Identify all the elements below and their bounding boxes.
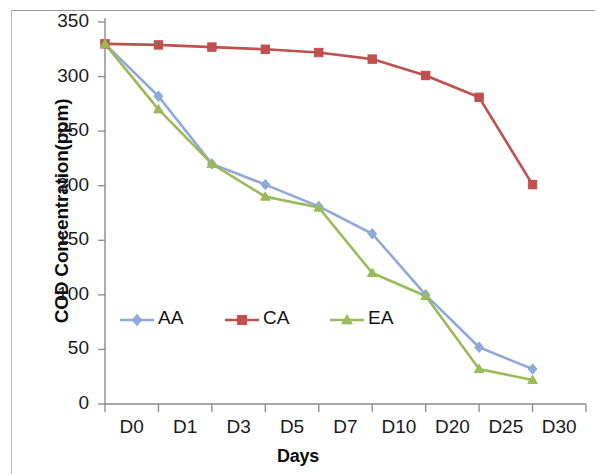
data-point-aa-d5 — [261, 179, 270, 190]
x-tick-label-d0: D0 — [102, 416, 162, 438]
data-point-aa-d30 — [528, 364, 537, 375]
data-point-ca-d10 — [368, 55, 376, 63]
plot-area — [0, 0, 596, 474]
x-tick-label-d3: D3 — [209, 416, 269, 438]
y-tick-label: 200 — [25, 174, 89, 196]
x-tick-label-d10: D10 — [369, 416, 429, 438]
cod-concentration-line-chart: COD Concentration(ppm) Days 050100150200… — [0, 0, 596, 474]
legend-glyphs — [120, 314, 364, 326]
data-point-ca-d25 — [475, 93, 483, 101]
x-tick-label-d1: D1 — [155, 416, 215, 438]
data-point-ca-d5 — [261, 45, 269, 53]
legend-label-aa: AA — [158, 307, 183, 329]
x-tick-label-d7: D7 — [316, 416, 376, 438]
legend-label-ea: EA — [368, 307, 393, 329]
y-tick-label: 0 — [25, 392, 89, 414]
x-tick-label-d25: D25 — [476, 416, 536, 438]
data-point-ca-d1 — [154, 41, 162, 49]
data-point-ca-d7 — [315, 48, 323, 56]
series-markers — [100, 39, 537, 384]
y-tick-label: 250 — [25, 119, 89, 141]
legend-marker-ca — [237, 315, 246, 324]
data-point-ca-d20 — [421, 71, 429, 79]
data-point-ca-d30 — [528, 180, 536, 188]
axis-lines — [105, 18, 586, 404]
legend-marker-aa — [132, 314, 142, 326]
y-tick-label: 50 — [25, 337, 89, 359]
y-tick-label: 100 — [25, 283, 89, 305]
y-tick-label: 300 — [25, 65, 89, 87]
x-tick-label-d30: D30 — [529, 416, 589, 438]
y-tick-label: 150 — [25, 228, 89, 250]
x-tick-label-d5: D5 — [262, 416, 322, 438]
y-tick-label: 350 — [25, 10, 89, 32]
series-line-ca — [105, 44, 533, 185]
x-tick-label-d20: D20 — [422, 416, 482, 438]
legend-label-ca: CA — [263, 307, 289, 329]
data-point-ca-d3 — [208, 43, 216, 51]
